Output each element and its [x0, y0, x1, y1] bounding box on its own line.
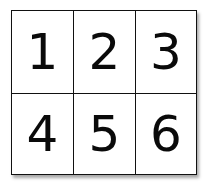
- number-grid: 1 2 3 4 5 6: [11, 10, 197, 175]
- grid-cell-5: 5: [74, 94, 136, 174]
- grid-cell-3: 3: [136, 11, 196, 94]
- grid-cell-2: 2: [74, 11, 136, 94]
- grid-cell-1: 1: [12, 11, 74, 94]
- grid-cell-4: 4: [12, 94, 74, 174]
- grid-cell-6: 6: [136, 94, 196, 174]
